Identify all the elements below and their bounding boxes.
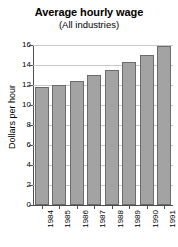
x-axis-tick-label: 1991 (168, 210, 177, 228)
x-axis-tick-mark (129, 206, 130, 209)
x-axis-tick-label: 1986 (81, 210, 90, 228)
bar (70, 81, 84, 205)
x-axis-tick-mark (42, 206, 43, 209)
x-axis-tick-mark (77, 206, 78, 209)
x-axis-tick-label: 1989 (133, 210, 142, 228)
y-axis-tick-label: 16 (5, 41, 31, 49)
bar (35, 87, 49, 205)
bar (105, 70, 119, 205)
plot-area (33, 45, 173, 205)
x-axis-tick-label: 1990 (151, 210, 160, 228)
x-axis-tick-label: 1984 (46, 210, 55, 228)
bar (122, 62, 136, 205)
x-axis-tick-mark (94, 206, 95, 209)
x-axis-tick-labels: 19841985198619871988198919901991 (33, 206, 173, 247)
bar (140, 55, 154, 205)
y-axis-tick-label: 0 (5, 201, 31, 209)
bar (52, 85, 66, 205)
bar (87, 75, 101, 205)
bars-group (33, 45, 173, 205)
x-axis-tick-mark (164, 206, 165, 209)
x-axis-tick-mark (147, 206, 148, 209)
x-axis-tick-mark (59, 206, 60, 209)
x-axis-tick-label: 1988 (116, 210, 125, 228)
bar (157, 46, 171, 205)
x-axis-tick-label: 1985 (63, 210, 72, 228)
bar-chart: Average hourly wage (All industries) 024… (0, 0, 178, 247)
x-axis-tick-label: 1987 (98, 210, 107, 228)
x-axis-tick-mark (112, 206, 113, 209)
y-axis-title: Dollars per hour (7, 62, 17, 172)
y-axis-tick-label: 2 (5, 181, 31, 189)
